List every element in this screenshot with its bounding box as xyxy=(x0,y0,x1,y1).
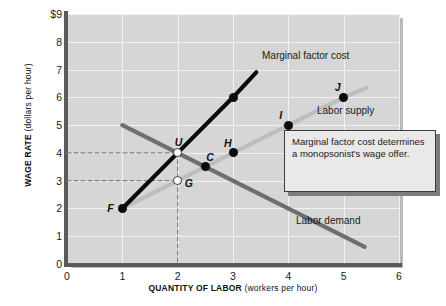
y-tick-label: 8 xyxy=(28,37,62,47)
y-axis-title-bold: WAGE RATE xyxy=(23,134,33,187)
y-axis-line xyxy=(64,11,68,267)
gridline-vertical xyxy=(233,14,234,264)
data-point xyxy=(229,93,238,102)
data-point-H xyxy=(229,148,238,157)
x-tick-label: 0 xyxy=(55,270,79,282)
y-tick-label: 2 xyxy=(28,203,62,213)
gridline-vertical xyxy=(122,14,123,264)
callout-box: Marginal factor cost determines a monops… xyxy=(284,130,436,192)
data-point-label-U: U xyxy=(175,136,183,148)
y-axis-title: WAGE RATE (dollars per hour) xyxy=(23,40,33,210)
y-tick-label: $9 xyxy=(28,9,62,19)
x-axis-title-unit: (workers per hour) xyxy=(244,283,317,293)
x-tick-label: 2 xyxy=(166,270,190,282)
x-tick-label: 5 xyxy=(332,270,356,282)
y-tick-label: 4 xyxy=(28,148,62,158)
x-tick-label: 1 xyxy=(110,270,134,282)
data-point-label-F: F xyxy=(107,202,113,214)
curve-label-labor-supply: Labor supply xyxy=(317,105,374,116)
data-point-label-J: J xyxy=(335,81,341,93)
data-point-F xyxy=(118,204,127,213)
y-tick-label: 5 xyxy=(28,120,62,130)
data-point-label-H: H xyxy=(224,137,232,149)
y-tick-label: 3 xyxy=(28,176,62,186)
x-tick-label: 3 xyxy=(221,270,245,282)
data-point-J xyxy=(339,93,348,102)
y-tick-label: 0 xyxy=(28,259,62,269)
data-point-label-I: I xyxy=(279,109,282,121)
data-point-I xyxy=(284,121,293,130)
data-point-label-C: C xyxy=(206,151,214,163)
x-axis-line xyxy=(64,263,402,267)
y-tick-label: 1 xyxy=(28,231,62,241)
x-axis-title: QUANTITY OF LABOR (workers per hour) xyxy=(64,283,402,293)
y-tick-label: 6 xyxy=(28,92,62,102)
curve-label-marginal-factor-cost: Marginal factor cost xyxy=(262,50,349,61)
chart-figure: $9876543210 0123456 WAGE RATE (dollars p… xyxy=(0,0,446,306)
x-tick-label: 6 xyxy=(387,270,411,282)
x-axis-title-bold: QUANTITY OF LABOR xyxy=(148,283,241,293)
y-tick-label: 7 xyxy=(28,65,62,75)
curve-label-labor-demand: Labor demand xyxy=(296,215,361,226)
y-axis-title-unit: (dollars per hour) xyxy=(23,63,33,131)
data-point-label-G: G xyxy=(185,177,193,189)
x-tick-label: 4 xyxy=(276,270,300,282)
